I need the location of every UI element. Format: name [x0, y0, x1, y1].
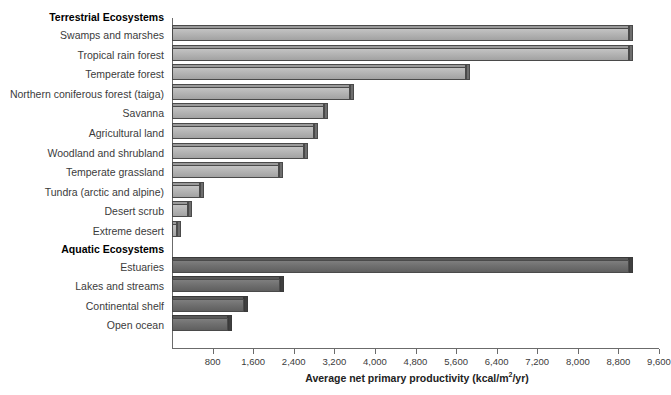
- bar: [172, 318, 228, 331]
- bar-front-face: [172, 126, 314, 139]
- x-axis-tick: [497, 349, 498, 354]
- category-label: Continental shelf: [86, 300, 164, 312]
- bar-front-face: [172, 106, 324, 119]
- x-axis-title: Average net primary productivity (kcal/m…: [172, 371, 662, 384]
- bar-front-face: [172, 87, 350, 100]
- bar-side-face: [228, 315, 232, 331]
- bar-front-face: [172, 165, 279, 178]
- bar-side-face: [314, 123, 318, 139]
- bar-side-face: [629, 25, 633, 41]
- bar-side-face: [629, 45, 633, 61]
- x-axis-tick-label: 5,600: [444, 356, 468, 367]
- bar-front-face: [172, 48, 629, 61]
- category-label: Savanna: [123, 107, 164, 119]
- bar-side-face: [350, 84, 354, 100]
- bar: [172, 87, 350, 100]
- bar: [172, 260, 629, 273]
- bar-side-face: [466, 64, 470, 80]
- bar: [172, 279, 280, 292]
- bar-front-face: [172, 67, 466, 80]
- x-axis-tick-label: 7,200: [525, 356, 549, 367]
- bar-front-face: [172, 318, 228, 331]
- bar-side-face: [177, 221, 181, 237]
- bar-side-face: [280, 276, 284, 292]
- x-axis-tick: [375, 349, 376, 354]
- bar-side-face: [629, 257, 633, 273]
- x-axis-tick: [213, 349, 214, 354]
- x-axis-tick-label: 6,400: [485, 356, 509, 367]
- x-axis-tick-label: 3,200: [322, 356, 346, 367]
- category-label: Temperate forest: [85, 68, 164, 80]
- x-axis-tick-label: 8,000: [566, 356, 590, 367]
- bar: [172, 146, 304, 159]
- bar: [172, 204, 188, 217]
- x-axis-tick-label: 9,600: [647, 356, 671, 367]
- bar-side-face: [200, 182, 204, 198]
- bar: [172, 185, 200, 198]
- category-label-column: Terrestrial EcosystemsSwamps and marshes…: [0, 0, 168, 345]
- category-label: Temperate grassland: [66, 166, 164, 178]
- bar: [172, 224, 177, 237]
- x-axis-title-after: /yr): [512, 372, 528, 384]
- category-label: Tundra (arctic and alpine): [45, 186, 164, 198]
- bar-side-face: [279, 162, 283, 178]
- x-axis-tick-label: 800: [205, 356, 221, 367]
- bar-front-face: [172, 204, 188, 217]
- x-axis-tick: [659, 349, 660, 354]
- x-axis-title-before: Average net primary productivity (kcal/m: [305, 372, 508, 384]
- group-header-terrestrial: Terrestrial Ecosystems: [49, 11, 164, 23]
- category-label: Open ocean: [107, 319, 164, 331]
- x-axis-tick: [253, 349, 254, 354]
- category-label: Tropical rain forest: [77, 49, 164, 61]
- bar-side-face: [324, 103, 328, 119]
- x-axis-tick-label: 4,000: [363, 356, 387, 367]
- x-axis-tick: [456, 349, 457, 354]
- x-axis-tick-label: 2,400: [282, 356, 306, 367]
- category-label: Lakes and streams: [75, 280, 164, 292]
- x-axis-tick: [294, 349, 295, 354]
- category-label: Agricultural land: [89, 127, 164, 139]
- bar-front-face: [172, 260, 629, 273]
- x-axis-tick: [618, 349, 619, 354]
- bar-front-face: [172, 28, 629, 41]
- bar: [172, 165, 279, 178]
- bar-front-face: [172, 146, 304, 159]
- x-axis-tick: [578, 349, 579, 354]
- bar: [172, 28, 629, 41]
- category-label: Extreme desert: [93, 225, 164, 237]
- group-header-aquatic: Aquatic Ecosystems: [61, 243, 164, 255]
- category-label: Northern coniferous forest (taiga): [10, 88, 164, 100]
- bar-side-face: [188, 201, 192, 217]
- x-axis-tick: [416, 349, 417, 354]
- x-axis-tick-label: 8,800: [607, 356, 631, 367]
- bar: [172, 106, 324, 119]
- category-label: Estuaries: [120, 261, 164, 273]
- plot-area: 8001,6002,4003,2004,0004,8005,6006,4007,…: [172, 18, 662, 348]
- bar-side-face: [244, 296, 248, 312]
- bar-front-face: [172, 299, 244, 312]
- bar: [172, 126, 314, 139]
- x-axis-tick: [334, 349, 335, 354]
- bar-front-face: [172, 279, 280, 292]
- bar-front-face: [172, 185, 200, 198]
- x-axis-tick-label: 4,800: [404, 356, 428, 367]
- bar: [172, 299, 244, 312]
- category-label: Swamps and marshes: [60, 29, 164, 41]
- x-axis-tick: [537, 349, 538, 354]
- bar-side-face: [304, 143, 308, 159]
- category-label: Woodland and shrubland: [47, 147, 164, 159]
- x-axis-tick-label: 1,600: [241, 356, 265, 367]
- bar: [172, 48, 629, 61]
- category-label: Desert scrub: [104, 205, 164, 217]
- bar: [172, 67, 466, 80]
